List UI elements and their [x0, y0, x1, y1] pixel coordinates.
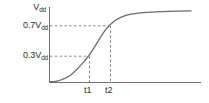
y-tick-label-high-subscript: dd [41, 24, 48, 31]
y-tick-label-high: 0.7Vdd [23, 21, 48, 30]
voltage-response-curve [50, 11, 191, 82]
y-tick-label-low: 0.3Vdd [23, 51, 48, 60]
y-axis-title: Vdd [33, 3, 46, 12]
waveform-chart: Vdd 0.7Vdd 0.3Vdd t1 t2 [0, 0, 209, 103]
x-tick-label-t2: t2 [105, 86, 113, 95]
y-tick-label-low-subscript: dd [41, 54, 48, 61]
y-axis-title-subscript: dd [39, 6, 46, 13]
x-tick-label-t1: t1 [84, 86, 92, 95]
y-tick-label-low-text: 0.3V [23, 50, 41, 60]
y-tick-label-high-text: 0.7V [23, 20, 41, 30]
